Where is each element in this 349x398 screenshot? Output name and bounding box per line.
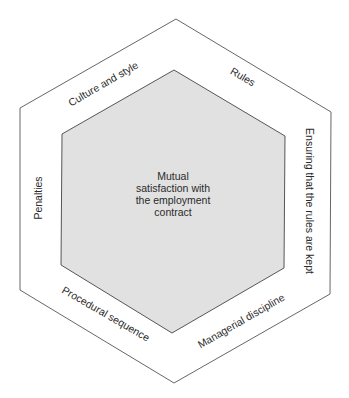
svg-text:satisfaction with: satisfaction with — [136, 182, 210, 194]
hexagon-diagram: Mutual satisfaction with the employment … — [0, 0, 349, 398]
svg-text:contract: contract — [154, 206, 191, 218]
svg-text:the employment: the employment — [136, 194, 211, 206]
side-label-penalties: Penalties — [32, 176, 44, 219]
side-label-ensuring-rules-kept: Ensuring that the rules are kept — [304, 128, 316, 274]
svg-text:Mutual: Mutual — [157, 170, 189, 182]
